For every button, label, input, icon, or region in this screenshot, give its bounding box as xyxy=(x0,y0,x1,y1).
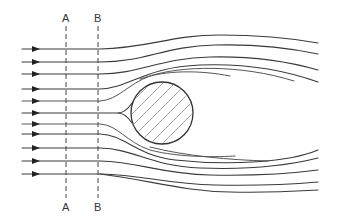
arrow-icon xyxy=(32,131,40,137)
arrow-icon xyxy=(32,46,40,52)
streamline xyxy=(22,124,235,157)
arrow-icon xyxy=(32,171,40,177)
cylinder xyxy=(131,82,193,144)
inflow-arrows xyxy=(32,46,40,177)
label-b-top: B xyxy=(94,12,101,24)
arrow-icon xyxy=(32,110,40,116)
section-lines xyxy=(66,26,98,198)
arrow-icon xyxy=(32,145,40,151)
arrow-icon xyxy=(32,59,40,65)
arrow-icon xyxy=(32,71,40,77)
flow-diagram: A B A B xyxy=(0,0,338,220)
arrow-icon xyxy=(32,98,40,104)
arrow-icon xyxy=(32,121,40,127)
label-a-top: A xyxy=(62,12,70,24)
streamline xyxy=(22,103,132,113)
streamline xyxy=(118,113,132,123)
label-a-bottom: A xyxy=(62,201,70,213)
arrow-icon xyxy=(32,158,40,164)
label-b-bottom: B xyxy=(94,201,101,213)
arrow-icon xyxy=(32,86,40,92)
